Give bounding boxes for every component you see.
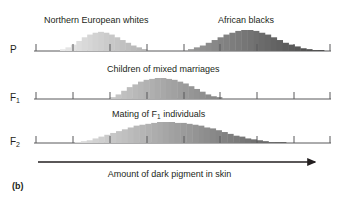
panel-letter: (b) <box>12 182 24 191</box>
figure-polygenic-inheritance: P Northern European whites African black… <box>0 0 339 200</box>
axis-caption: Amount of dark pigment in skin <box>0 170 339 179</box>
